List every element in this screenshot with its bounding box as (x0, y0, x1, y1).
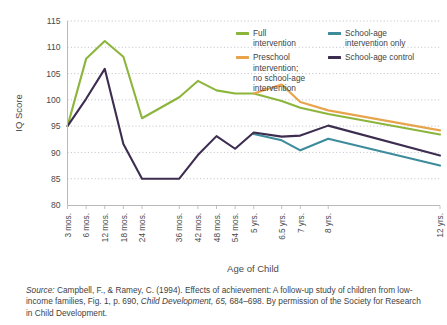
x-tick-label: 12 mos. (101, 213, 110, 242)
legend-entry: Full intervention (236, 28, 328, 48)
legend-label: School-age control (345, 52, 414, 62)
x-tick-label: 8 yrs. (324, 213, 333, 233)
chart-legend: Full interventionPreschool intervention;… (236, 28, 442, 97)
y-tick-label: 80 (51, 200, 61, 210)
source-note-journal: Child Development, 65, (141, 296, 227, 306)
x-tick-label: 48 mos. (213, 213, 222, 242)
x-tick-label: 36 mos. (175, 213, 184, 242)
x-tick-label: 6 mos. (82, 213, 91, 238)
x-tick-label: 54 mos. (231, 213, 240, 242)
source-note: Source: Campbell, F., & Ramey, C. (1994)… (26, 285, 426, 319)
x-tick-label: 24 mos. (138, 213, 147, 242)
x-tick-label: 7 yrs. (297, 213, 306, 233)
x-tick-label: 5 yrs. (250, 213, 259, 233)
x-axis-title: Age of Child (227, 263, 279, 274)
y-axis-tick-labels: 80859095100105110115 (46, 16, 61, 210)
source-note-prefix: Source: (26, 285, 55, 295)
x-axis-tick-labels: 3 mos.6 mos.12 mos.18 mos.24 mos.36 mos.… (64, 213, 446, 242)
chart-figure: 80859095100105110115 3 mos.6 mos.12 mos.… (0, 0, 447, 325)
series-line (254, 134, 440, 166)
y-tick-label: 90 (51, 148, 61, 158)
y-tick-label: 100 (46, 95, 61, 105)
legend-label: Preschool intervention; no school-age in… (253, 52, 305, 93)
legend-entry: Preschool intervention; no school-age in… (236, 52, 328, 93)
y-tick-label: 95 (51, 121, 61, 131)
y-tick-label: 115 (47, 16, 61, 26)
x-tick-label: 42 mos. (194, 213, 203, 242)
legend-swatch-icon (328, 32, 341, 35)
y-tick-label: 85 (51, 174, 61, 184)
y-tick-label: 105 (46, 69, 61, 79)
x-axis-tick-marks (68, 206, 441, 210)
legend-swatch-icon (236, 32, 249, 35)
legend-label: School-age intervention only (345, 28, 405, 48)
legend-swatch-icon (328, 56, 341, 59)
legend-entry: School-age control (328, 52, 440, 62)
legend-column-right: School-age intervention onlySchool-age c… (328, 28, 440, 97)
x-tick-label: 6.5 yrs. (278, 213, 287, 240)
x-tick-label: 3 mos. (64, 213, 73, 238)
legend-entry: School-age intervention only (328, 28, 440, 48)
legend-label: Full intervention (253, 28, 296, 48)
y-tick-label: 110 (47, 42, 61, 52)
x-tick-label: 18 mos. (120, 213, 129, 242)
legend-column-left: Full interventionPreschool intervention;… (236, 28, 328, 97)
y-axis-title: IQ Score (13, 94, 24, 132)
legend-swatch-icon (236, 56, 249, 59)
x-tick-label: 12 yrs. (436, 213, 445, 238)
